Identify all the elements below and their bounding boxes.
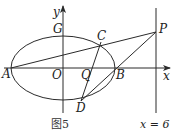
segment-AP	[11, 32, 156, 68]
label-B: B	[115, 68, 125, 82]
label-y: y	[52, 5, 60, 19]
label-Q: Q	[81, 68, 91, 82]
geometry-figure: y x G C P A O Q B D x = 6 图5	[0, 0, 179, 135]
label-P: P	[158, 22, 168, 36]
label-D: D	[75, 101, 86, 115]
label-x: x	[163, 69, 170, 83]
label-line-x6: x = 6	[140, 118, 169, 131]
figure-caption: 图5	[51, 118, 69, 131]
label-C: C	[97, 29, 106, 43]
label-G: G	[53, 22, 63, 36]
label-O: O	[52, 68, 62, 82]
label-A: A	[1, 67, 11, 81]
